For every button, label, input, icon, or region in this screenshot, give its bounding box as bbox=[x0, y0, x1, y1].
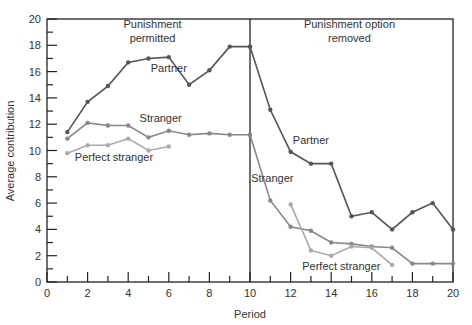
data-point bbox=[248, 44, 252, 48]
data-point bbox=[106, 123, 110, 127]
data-point bbox=[268, 108, 272, 112]
data-point bbox=[370, 210, 374, 214]
data-point bbox=[390, 246, 394, 250]
data-point bbox=[187, 83, 191, 87]
data-point bbox=[187, 133, 191, 137]
data-point bbox=[431, 201, 435, 205]
series-line bbox=[67, 123, 250, 139]
data-point bbox=[106, 84, 110, 88]
data-point bbox=[106, 143, 110, 147]
series-label: Stranger bbox=[140, 112, 183, 124]
data-point bbox=[329, 254, 333, 258]
x-axis-label: Period bbox=[234, 308, 266, 320]
y-tick-label: 12 bbox=[29, 118, 41, 130]
line-chart: 0246810121416182002468101214161820 Partn… bbox=[0, 0, 472, 325]
data-point bbox=[268, 198, 272, 202]
data-point bbox=[85, 121, 89, 125]
series-perfect-stranger: Perfect strangerPerfect stranger bbox=[65, 136, 394, 272]
data-point bbox=[146, 56, 150, 60]
data-point bbox=[167, 144, 171, 148]
data-point bbox=[146, 135, 150, 139]
data-point bbox=[349, 244, 353, 248]
data-point bbox=[85, 100, 89, 104]
data-point bbox=[309, 229, 313, 233]
series-label: Stranger bbox=[251, 172, 294, 184]
data-point bbox=[410, 210, 414, 214]
x-tick-label: 8 bbox=[206, 287, 212, 299]
data-point bbox=[126, 136, 130, 140]
x-tick-label: 12 bbox=[284, 287, 296, 299]
data-point bbox=[370, 246, 374, 250]
data-point bbox=[451, 227, 455, 231]
y-tick-label: 0 bbox=[35, 276, 41, 288]
series-label: Partner bbox=[151, 62, 187, 74]
data-point bbox=[167, 129, 171, 133]
x-tick-label: 16 bbox=[366, 287, 378, 299]
x-tick-label: 18 bbox=[406, 287, 418, 299]
annotation-punish-permitted: Punishmentpermitted bbox=[124, 18, 182, 44]
x-tick-label: 0 bbox=[44, 287, 50, 299]
x-tick-label: 2 bbox=[85, 287, 91, 299]
data-point bbox=[329, 161, 333, 165]
y-tick-label: 20 bbox=[29, 13, 41, 25]
data-point bbox=[65, 136, 69, 140]
series-stranger: StrangerStranger bbox=[65, 112, 455, 266]
x-tick-label: 6 bbox=[166, 287, 172, 299]
data-point bbox=[288, 202, 292, 206]
data-point bbox=[85, 143, 89, 147]
x-tick-label: 20 bbox=[447, 287, 459, 299]
y-tick-label: 14 bbox=[29, 92, 41, 104]
data-point bbox=[329, 240, 333, 244]
data-point bbox=[390, 263, 394, 267]
data-point bbox=[288, 150, 292, 154]
y-tick-label: 18 bbox=[29, 39, 41, 51]
data-point bbox=[65, 130, 69, 134]
data-point bbox=[431, 261, 435, 265]
annotation-punish-removed: Punishment optionremoved bbox=[304, 18, 395, 44]
data-point bbox=[451, 261, 455, 265]
data-point bbox=[309, 248, 313, 252]
y-tick-label: 4 bbox=[35, 223, 41, 235]
series-label: Partner bbox=[293, 134, 329, 146]
y-axis-label: Average contribution bbox=[4, 101, 16, 202]
data-point bbox=[410, 261, 414, 265]
data-point bbox=[248, 133, 252, 137]
y-tick-label: 10 bbox=[29, 145, 41, 157]
plot-area: PartnerPartnerStrangerStrangerPerfect st… bbox=[65, 18, 455, 272]
data-point bbox=[65, 151, 69, 155]
series-label: Perfect stranger bbox=[302, 260, 381, 272]
data-point bbox=[228, 44, 232, 48]
series-line bbox=[291, 204, 393, 264]
data-point bbox=[207, 131, 211, 135]
y-tick-label: 16 bbox=[29, 66, 41, 78]
data-point bbox=[288, 225, 292, 229]
x-tick-label: 10 bbox=[244, 287, 256, 299]
data-point bbox=[349, 214, 353, 218]
data-point bbox=[126, 123, 130, 127]
series-line bbox=[250, 47, 453, 230]
x-tick-label: 4 bbox=[125, 287, 131, 299]
y-tick-label: 6 bbox=[35, 197, 41, 209]
data-point bbox=[228, 133, 232, 137]
series-partner: PartnerPartner bbox=[65, 44, 455, 231]
x-tick-label: 14 bbox=[325, 287, 337, 299]
y-tick-label: 8 bbox=[35, 171, 41, 183]
data-point bbox=[167, 55, 171, 59]
data-point bbox=[126, 60, 130, 64]
y-tick-label: 2 bbox=[35, 250, 41, 262]
data-point bbox=[390, 227, 394, 231]
data-point bbox=[207, 68, 211, 72]
series-label: Perfect stranger bbox=[75, 151, 154, 163]
data-point bbox=[309, 161, 313, 165]
